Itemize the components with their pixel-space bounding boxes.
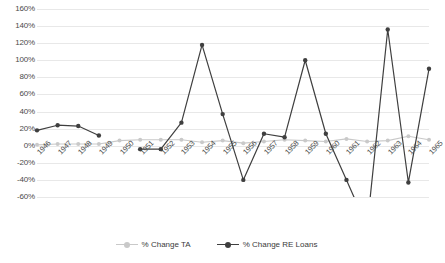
data-point <box>282 135 286 139</box>
data-point <box>220 112 224 116</box>
data-point <box>427 138 431 142</box>
series-re-loans <box>35 27 431 227</box>
data-point <box>241 178 245 182</box>
legend-label: % Change TA <box>142 240 191 249</box>
data-point <box>365 139 369 143</box>
data-point <box>303 58 307 62</box>
data-point <box>303 139 307 143</box>
data-point <box>200 43 204 47</box>
y-axis-tick-label: 0% <box>3 141 35 150</box>
data-point <box>138 138 142 142</box>
legend-marker-icon <box>116 241 138 249</box>
data-point <box>262 139 266 143</box>
data-point <box>200 140 204 144</box>
data-point <box>118 139 122 143</box>
data-point <box>386 139 390 143</box>
y-axis-tick-label: -40% <box>3 175 35 184</box>
y-axis-tick-label: 80% <box>3 72 35 81</box>
data-point <box>179 138 183 142</box>
data-point <box>221 139 225 143</box>
data-point <box>324 139 328 143</box>
data-point <box>159 138 163 142</box>
data-point <box>344 137 348 141</box>
data-point <box>406 180 410 184</box>
legend-label: % Change RE Loans <box>243 240 318 249</box>
data-point <box>406 134 410 138</box>
y-axis-tick-label: 100% <box>3 55 35 64</box>
y-axis-tick-label: 60% <box>3 89 35 98</box>
legend-item-ta: % Change TA <box>116 240 191 249</box>
chart-legend: % Change TA % Change RE Loans <box>0 240 433 249</box>
data-point <box>76 124 80 128</box>
x-axis: 1946194719481949195019511952195319541955… <box>0 0 433 40</box>
y-axis-tick-label: -60% <box>3 192 35 201</box>
gridline <box>37 197 429 198</box>
legend-item-re-loans: % Change RE Loans <box>217 240 318 249</box>
legend-marker-icon <box>217 241 239 249</box>
series-line <box>37 125 99 135</box>
y-axis-tick-label: -20% <box>3 158 35 167</box>
data-point <box>55 123 59 127</box>
data-point <box>179 120 183 124</box>
data-point <box>344 178 348 182</box>
y-axis-tick-label: 40% <box>3 107 35 116</box>
data-point <box>427 67 431 71</box>
data-point <box>324 132 328 136</box>
y-axis-tick-label: 20% <box>3 124 35 133</box>
data-point <box>35 128 39 132</box>
data-point <box>97 133 101 137</box>
data-point <box>262 132 266 136</box>
